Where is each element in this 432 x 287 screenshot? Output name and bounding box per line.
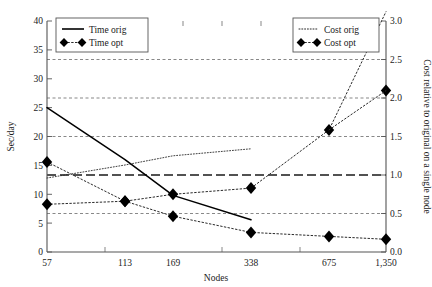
x-tick-label: 675 xyxy=(322,258,337,268)
legend-label-cost-opt: Cost opt xyxy=(324,38,356,48)
y-axis-left-title: Sec/day xyxy=(6,121,16,151)
legend-label-time-orig: Time orig xyxy=(89,25,127,35)
y-tick-label: 25 xyxy=(34,103,44,113)
legend-left[interactable]: Time orig Time opt xyxy=(56,18,148,52)
x-tick-label: 338 xyxy=(244,258,259,268)
x-tick-label: 169 xyxy=(166,258,181,268)
y-tick-label: 10 xyxy=(34,190,44,200)
chart-figure: 0 5 10 15 20 25 30 35 40 Sec/day 0.0 0.5… xyxy=(0,0,432,287)
legend-label-time-opt: Time opt xyxy=(89,38,124,48)
x-tick-label: 113 xyxy=(118,258,132,268)
y2-tick-label: 2.0 xyxy=(390,93,402,103)
x-axis-tick-labels: 57 113 169 338 675 1,350 xyxy=(42,258,397,268)
x-tick-label: 57 xyxy=(42,258,52,268)
y-tick-label: 35 xyxy=(34,45,44,55)
chart-svg: 0 5 10 15 20 25 30 35 40 Sec/day 0.0 0.5… xyxy=(0,0,432,287)
y-tick-label: 15 xyxy=(34,161,44,171)
y-tick-label: 0 xyxy=(38,247,43,257)
y2-tick-label: 0.5 xyxy=(390,209,402,219)
y2-tick-label: 3.0 xyxy=(390,16,402,26)
y-axis-left-tick-labels: 0 5 10 15 20 25 30 35 40 xyxy=(34,16,44,257)
y-tick-label: 5 xyxy=(38,219,43,229)
y2-tick-label: 1.5 xyxy=(390,132,402,142)
x-axis-title: Nodes xyxy=(204,273,229,283)
y-tick-label: 30 xyxy=(34,74,44,84)
legend-right[interactable]: Cost orig Cost opt xyxy=(293,18,379,52)
y2-tick-label: 2.5 xyxy=(390,55,402,65)
y-axis-right-tick-labels: 0.0 0.5 1.0 1.5 2.0 2.5 3.0 xyxy=(390,16,402,257)
x-tick-label: 1,350 xyxy=(375,258,397,268)
y2-tick-label: 1.0 xyxy=(390,170,402,180)
legend-label-cost-orig: Cost orig xyxy=(324,25,359,35)
y-tick-label: 40 xyxy=(34,16,44,26)
y-axis-right-title: Cost relative to original on a single no… xyxy=(422,59,432,213)
y-tick-label: 20 xyxy=(34,132,44,142)
y2-tick-label: 0.0 xyxy=(390,247,402,257)
